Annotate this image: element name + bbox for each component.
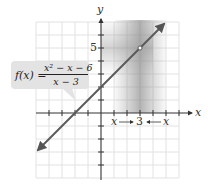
horizontal-limit-band [101, 22, 153, 74]
x-axis-label: x [195, 106, 201, 119]
approach-right-x: x [163, 115, 169, 128]
function-graph [0, 0, 208, 191]
y-axis-label: y [97, 3, 103, 16]
function-fraction: x² − x − 6 x − 3 [44, 62, 88, 87]
fraction-numerator: x² − x − 6 [44, 62, 88, 75]
approach-left-x: x [111, 115, 117, 128]
function-lhs: f(x) = [15, 69, 47, 82]
y-tick-label-5: 5 [90, 41, 97, 54]
hole-point [138, 46, 142, 50]
callout-pointer [62, 88, 76, 101]
fraction-denominator: x − 3 [44, 75, 88, 87]
approach-center-3: 3 [136, 115, 143, 128]
function-callout: f(x) = x² − x − 6 x − 3 [11, 61, 89, 89]
